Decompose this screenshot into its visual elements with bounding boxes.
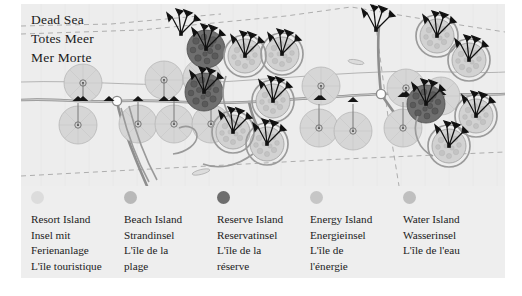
legend-label-en: Resort Island [31,212,123,228]
legend-label-fr2: réserve [217,259,309,275]
map-title-en: Dead Sea [31,10,94,29]
legend-label-fr2: plage [124,259,216,275]
legend-label-en: Beach Island [124,212,216,228]
legend-labels-reserve: Reserve Island Reservatinsel L'île de la… [217,212,309,274]
legend-dot-water [403,191,416,204]
legend-dot-beach [124,191,137,204]
legend-item-reserve[interactable]: Reserve Island Reservatinsel L'île de la… [217,186,309,274]
legend-label-fr1: L'île de la [217,243,309,259]
legend-labels-resort: Resort Island Insel mit Ferienanlage L'î… [31,212,123,274]
legend-label-de2: Ferienanlage [31,243,123,259]
legend-dot-energy [310,191,323,204]
legend-dot-resort [31,191,44,204]
legend-labels-water: Water Island Wasserinsel L'île de l'eau [403,212,495,259]
legend-label-en: Reserve Island [217,212,309,228]
legend-label-en: Energy Island [310,212,402,228]
legend-label-de: Reservatinsel [217,228,309,244]
legend-label-fr: L'île touristique [31,259,123,275]
legend-item-water[interactable]: Water Island Wasserinsel L'île de l'eau [403,186,495,259]
legend-labels-energy: Energy Island Energieinsel L'île de l'én… [310,212,402,274]
map-title-fr: Mer Morte [31,48,94,67]
legend-label-fr2: l'énergie [310,259,402,275]
legend-item-beach[interactable]: Beach Island Strandinsel L'île de la pla… [124,186,216,274]
legend-item-resort[interactable]: Resort Island Insel mit Ferienanlage L'î… [31,186,123,274]
legend: Resort Island Insel mit Ferienanlage L'î… [21,186,505,278]
legend-item-energy[interactable]: Energy Island Energieinsel L'île de l'én… [310,186,402,274]
legend-label-de1: Strandinsel [124,228,216,244]
legend-label-de: Wasserinsel [403,228,495,244]
legend-label-fr1: L'île de [310,243,402,259]
diagram-panel: Dead Sea Totes Meer Mer Morte Resort Isl… [21,4,505,278]
legend-label-de: Energieinsel [310,228,402,244]
legend-label-fr: L'île de l'eau [403,243,495,259]
map-title-block: Dead Sea Totes Meer Mer Morte [31,10,94,67]
legend-label-de1: Insel mit [31,228,123,244]
legend-labels-beach: Beach Island Strandinsel L'île de la pla… [124,212,216,274]
map-title-de: Totes Meer [31,29,94,48]
legend-label-fr1: L'île de la [124,243,216,259]
map-area: Dead Sea Totes Meer Mer Morte [21,4,505,186]
legend-label-en: Water Island [403,212,495,228]
legend-dot-reserve [217,191,230,204]
